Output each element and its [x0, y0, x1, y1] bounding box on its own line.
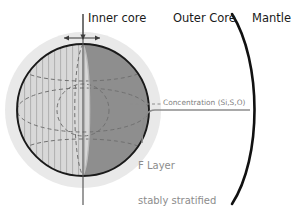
label-f-layer-line1: F Layer [138, 160, 216, 172]
label-f-layer: F Layer stably stratified [138, 137, 216, 210]
label-f-layer-line2: stably stratified [138, 195, 216, 207]
label-outer-core: Outer Core [173, 12, 236, 25]
label-mantle: Mantle [252, 12, 291, 25]
label-concentration: Concentration (Si,S,O) [163, 99, 245, 108]
label-inner-core: Inner core [88, 12, 146, 25]
